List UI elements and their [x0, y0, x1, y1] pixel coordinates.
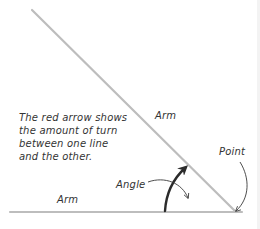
- angle-label: Angle: [116, 178, 145, 191]
- diagonal-arm-label: Arm: [155, 109, 176, 122]
- horizontal-arm-label: Arm: [57, 193, 78, 206]
- description-line: the amount of turn: [19, 124, 127, 137]
- angle-diagram: The red arrow shows the amount of turn b…: [0, 0, 260, 229]
- point-leader-arrow-icon: [236, 162, 247, 211]
- description-text: The red arrow shows the amount of turn b…: [19, 111, 127, 163]
- description-line: The red arrow shows: [19, 111, 127, 124]
- point-label: Point: [219, 145, 245, 158]
- description-line: between one line: [19, 137, 127, 150]
- description-line: and the other.: [19, 150, 127, 163]
- angle-turn-arrow-icon: [165, 168, 185, 211]
